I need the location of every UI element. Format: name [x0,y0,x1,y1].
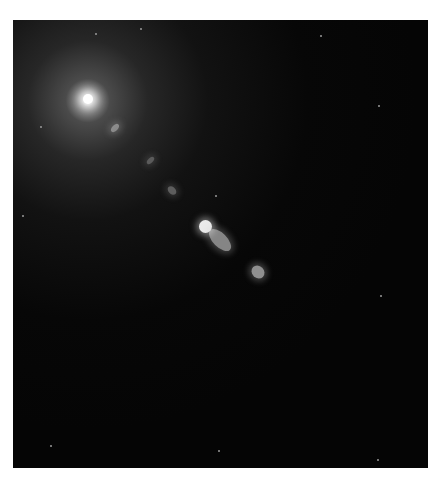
star [95,33,97,35]
star [215,195,217,197]
galaxy-photo [13,20,428,468]
star [378,105,380,107]
star [50,445,52,447]
star [40,126,42,128]
star [380,295,382,297]
star [377,459,379,461]
star [320,35,322,37]
galaxy-core [83,94,93,104]
star [218,450,220,452]
star [140,28,142,30]
star [22,215,24,217]
